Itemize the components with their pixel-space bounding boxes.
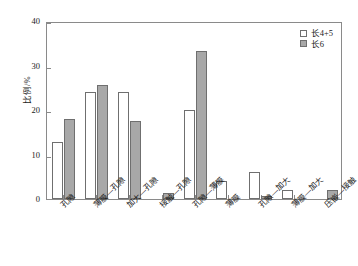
legend-label-series-b: 长6 (311, 40, 324, 49)
bar (118, 92, 129, 199)
bar-group (249, 23, 272, 199)
bar-group (315, 23, 338, 199)
bar (163, 193, 174, 199)
legend-entry-series-b: 长6 (300, 40, 333, 49)
bar (196, 51, 207, 199)
bar (216, 181, 227, 199)
bar-group (216, 23, 239, 199)
bar (184, 110, 195, 199)
bar (282, 190, 293, 199)
bars-layer (47, 23, 341, 199)
bar (130, 121, 141, 199)
bar (85, 92, 96, 199)
y-tick-label: 40 (14, 17, 40, 26)
y-tick-label: 30 (14, 62, 40, 71)
y-tick-label: 20 (14, 106, 40, 115)
bar (249, 172, 260, 199)
bar (52, 142, 63, 199)
legend-swatch-icon-series-a (300, 30, 307, 37)
legend-entry-series-a: 长4+5 (300, 29, 333, 38)
bar (97, 85, 108, 199)
legend-swatch-icon-series-b (300, 40, 307, 47)
bar (64, 119, 75, 199)
bar-group (184, 23, 207, 199)
bar-group (118, 23, 141, 199)
chart-legend: 长4+5 长6 (300, 29, 333, 48)
y-tick-label: 10 (14, 151, 40, 160)
bar-group (151, 23, 174, 199)
bar (261, 196, 272, 199)
bar-group (85, 23, 108, 199)
plot-area: 长4+5 长6 (46, 22, 342, 200)
bar-group (282, 23, 305, 199)
bar (327, 190, 338, 199)
y-tick-label: 0 (14, 195, 40, 204)
legend-label-series-a: 长4+5 (311, 29, 333, 38)
bar-group (52, 23, 75, 199)
